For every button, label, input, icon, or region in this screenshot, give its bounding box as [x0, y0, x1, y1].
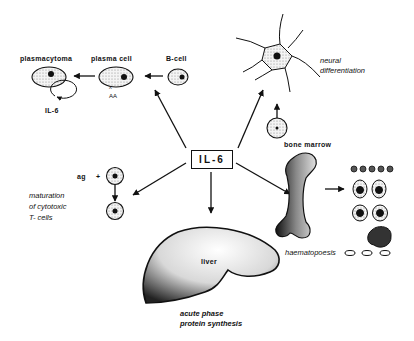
blood-cells-row [351, 166, 393, 172]
haematopoesis-label: haematopoesis [285, 248, 336, 258]
plasma-cell-label: plasma cell [91, 55, 132, 62]
ag-label: ag [77, 173, 86, 180]
ag-plus-sign: + [96, 173, 100, 180]
t-cell-label-line3: T- cells [29, 213, 52, 223]
arrow-to-neural [238, 90, 263, 148]
svg-text:AA: AA [109, 93, 117, 99]
myeloid-cells [353, 180, 392, 247]
bone-marrow-branch [276, 153, 393, 256]
b-cell-branch: ^ AA [32, 67, 188, 99]
b-cell [168, 69, 188, 85]
autocrine-il6-label: IL-6 [45, 107, 59, 114]
neural-label-line2: differentiation [320, 66, 365, 76]
t-cell-label-line2: of cytotoxic [29, 202, 67, 212]
liver-shape [143, 227, 279, 303]
autocrine-loop-icon [51, 80, 77, 98]
t-cell-label-line1: maturation [29, 191, 64, 201]
neural-label-line1: neural [320, 56, 341, 66]
bone-marrow-label: bone marrow [284, 141, 331, 148]
bone-shape [276, 153, 317, 238]
arrow-to-b-cell [155, 90, 186, 148]
erythrocytes [345, 251, 390, 256]
plasmacytoma-label: plasmacytoma [20, 55, 72, 62]
arrow-to-bone-marrow [236, 163, 290, 194]
acute-phase-line2: protein synthesis [180, 319, 242, 329]
plasmacytoma-cell [32, 67, 66, 87]
megakaryocyte [368, 227, 391, 248]
liver-branch [143, 227, 279, 303]
arrow-to-t-cell [133, 163, 186, 195]
acute-phase-line1: acute phase [180, 309, 223, 319]
liver-label: liver [201, 258, 217, 265]
il6-diagram: ^ AA [0, 0, 414, 341]
b-cell-label: B-cell [166, 55, 187, 62]
plasma-cell [99, 67, 133, 87]
svg-text:^: ^ [109, 86, 112, 92]
neural-branch [236, 14, 320, 138]
il6-central-box: IL-6 [191, 150, 233, 169]
